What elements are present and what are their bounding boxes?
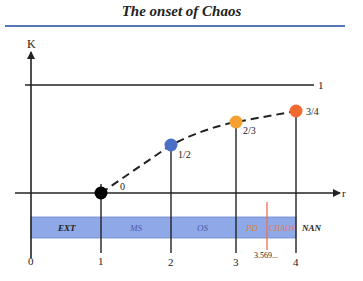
x-axis-label: r	[342, 187, 346, 199]
x-tick-0: 0	[28, 255, 34, 267]
point-label-half: 1/2	[178, 149, 191, 160]
x-tick-2: 2	[168, 256, 174, 268]
region-ext: EXT	[57, 223, 76, 233]
region-chaos: CHAOS	[269, 224, 295, 233]
region-nan: NAN	[301, 223, 322, 233]
reference-line-label: 1	[318, 79, 324, 91]
onset-of-chaos-diagram: K r 1 0 1/2 2/3 3/4 3.569... EXT MS OS P…	[0, 0, 363, 281]
point-label-0: 0	[120, 181, 125, 192]
region-ms: MS	[129, 223, 142, 233]
k-curve-dashed	[101, 111, 296, 193]
point-r3	[230, 116, 243, 129]
point-r1	[95, 187, 108, 200]
region-os: OS	[197, 223, 208, 233]
y-axis-label: K	[27, 37, 36, 51]
chaos-threshold-label: 3.569...	[254, 251, 278, 260]
point-r4	[290, 105, 303, 118]
x-tick-3: 3	[233, 256, 239, 268]
region-pd: PD	[245, 223, 258, 233]
point-label-two-thirds: 2/3	[243, 125, 256, 136]
x-tick-4: 4	[293, 256, 299, 268]
point-label-three-quarters: 3/4	[306, 106, 319, 117]
point-r2	[165, 139, 178, 152]
x-tick-1: 1	[98, 255, 104, 267]
